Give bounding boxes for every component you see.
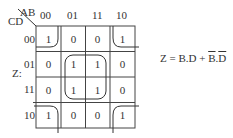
cell-cd00-ab10: 1 xyxy=(110,26,135,51)
row-header-10: 10 xyxy=(24,110,35,121)
cell-cd01-ab00: 0 xyxy=(36,51,61,76)
col-header-10: 10 xyxy=(116,10,127,21)
cell-cd01-ab10: 0 xyxy=(110,51,135,76)
cell-cd11-ab10: 0 xyxy=(110,77,135,102)
output-label: Z: xyxy=(12,68,22,79)
cell-cd10-ab01: 0 xyxy=(61,102,86,127)
row-header-11: 11 xyxy=(24,84,35,95)
row-header-01: 01 xyxy=(24,59,35,70)
formula-lhs: Z = xyxy=(160,52,178,64)
cell-cd11-ab11: 1 xyxy=(85,77,110,102)
col-header-01: 01 xyxy=(67,10,78,21)
cell-cd11-ab00: 0 xyxy=(36,77,61,102)
col-header-11: 11 xyxy=(92,10,103,21)
cell-cd00-ab11: 0 xyxy=(85,26,110,51)
col-header-00: 00 xyxy=(40,10,51,21)
formula-plus: + xyxy=(196,52,208,64)
cell-cd00-ab00: 1 xyxy=(36,26,61,51)
formula-term2-b-bar: B xyxy=(208,52,215,64)
cell-cd10-ab10: 1 xyxy=(110,102,135,127)
row-header-00: 00 xyxy=(24,34,35,45)
row-variable-label: CD xyxy=(8,16,23,27)
cell-cd11-ab01: 1 xyxy=(61,77,86,102)
cell-cd00-ab01: 0 xyxy=(61,26,86,51)
formula-term1: B.D xyxy=(178,52,196,64)
cell-cd01-ab11: 1 xyxy=(85,51,110,76)
cell-cd10-ab11: 0 xyxy=(85,102,110,127)
cell-cd01-ab01: 1 xyxy=(61,51,86,76)
boolean-expression: Z = B.D + B.D xyxy=(160,52,226,64)
formula-term2-d-bar: D xyxy=(218,52,226,64)
cell-cd10-ab00: 1 xyxy=(36,102,61,127)
